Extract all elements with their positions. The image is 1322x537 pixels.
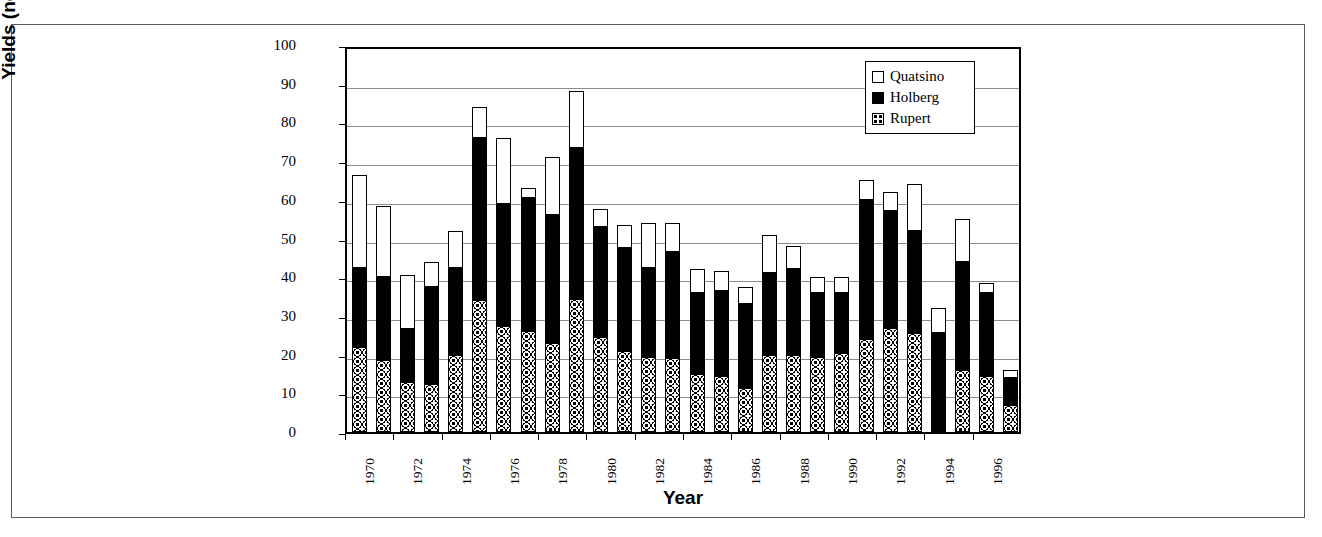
bar-segment-quatsino <box>376 206 391 278</box>
bar-segment-holberg <box>521 198 536 332</box>
bar-1982 <box>641 223 656 432</box>
bar-1971 <box>376 206 391 432</box>
bar-segment-holberg <box>376 277 391 360</box>
x-axis-tick-mark <box>538 434 539 440</box>
x-axis-tick-mark <box>683 434 684 440</box>
bar-1988 <box>786 246 801 432</box>
x-axis-tick-label: 1992 <box>893 458 909 485</box>
bar-segment-quatsino <box>569 91 584 147</box>
x-axis-tick-label: 1982 <box>652 458 668 485</box>
bar-1980 <box>593 209 608 432</box>
bar-1976 <box>496 138 511 432</box>
y-axis-tick-label: 80 <box>256 115 296 130</box>
bar-segment-rupert <box>472 300 487 432</box>
bar-segment-quatsino <box>786 246 801 269</box>
bar-segment-rupert <box>424 384 439 432</box>
bar-1992 <box>883 192 898 432</box>
bar-segment-holberg <box>569 148 584 299</box>
bar-segment-rupert <box>690 374 705 432</box>
legend-item-holberg: Holberg <box>872 87 966 108</box>
bar-1989 <box>810 277 825 432</box>
bar-1985 <box>714 271 729 432</box>
legend-label-quatsino: Quatsino <box>890 68 944 85</box>
x-axis-tick-label: 1994 <box>942 458 958 485</box>
bar-segment-quatsino <box>690 269 705 292</box>
bar-segment-holberg <box>641 268 656 357</box>
x-axis-tick-label: 1976 <box>507 458 523 485</box>
x-axis-tick-mark <box>490 434 491 440</box>
bar-1970 <box>352 175 367 432</box>
x-axis-tick-label: 1984 <box>700 458 716 485</box>
bar-segment-quatsino <box>617 225 632 248</box>
legend-item-quatsino: Quatsino <box>872 66 966 87</box>
bar-1990 <box>834 277 849 432</box>
bar-segment-rupert <box>617 351 632 432</box>
plot-area: Quatsino Holberg Rupert <box>345 47 1021 434</box>
bar-segment-holberg <box>979 293 994 376</box>
bar-1994 <box>931 308 946 432</box>
bar-segment-rupert <box>1003 405 1018 432</box>
bar-segment-rupert <box>593 337 608 432</box>
y-axis-tick-label: 20 <box>256 348 296 363</box>
x-axis-tick-label: 1996 <box>990 458 1006 485</box>
y-axis-tick-label: 30 <box>256 309 296 324</box>
bar-segment-quatsino <box>810 277 825 292</box>
bar-1997 <box>1003 370 1018 432</box>
bar-segment-quatsino <box>955 219 970 262</box>
bar-segment-holberg <box>834 293 849 353</box>
bar-segment-quatsino <box>762 235 777 274</box>
bar-segment-holberg <box>472 138 487 301</box>
bar-1981 <box>617 225 632 432</box>
bar-segment-holberg <box>786 269 801 354</box>
bar-segment-holberg <box>738 304 753 387</box>
bar-segment-quatsino <box>641 223 656 268</box>
legend-swatch-quatsino-icon <box>872 71 884 83</box>
bar-segment-rupert <box>545 343 560 432</box>
legend-item-rupert: Rupert <box>872 108 966 129</box>
bar-segment-quatsino <box>521 188 536 198</box>
x-axis-tick-mark <box>586 434 587 440</box>
bar-segment-quatsino <box>472 107 487 138</box>
bar-segment-quatsino <box>665 223 680 252</box>
y-axis-tick-label: 100 <box>256 38 296 53</box>
bar-segment-holberg <box>714 291 729 376</box>
bar-segment-holberg <box>617 248 632 351</box>
y-axis-tick-label: 90 <box>256 77 296 92</box>
bar-segment-quatsino <box>352 175 367 268</box>
y-axis-tick-label: 70 <box>256 154 296 169</box>
bar-segment-holberg <box>1003 378 1018 405</box>
x-axis-tick-mark <box>828 434 829 440</box>
bar-segment-rupert <box>955 370 970 432</box>
bar-1991 <box>859 180 874 432</box>
x-axis-tick-mark <box>635 434 636 440</box>
x-axis-tick-labels: 1970197219741976197819801982198419861988… <box>345 441 1021 487</box>
x-axis-tick-mark <box>393 434 394 440</box>
bar-segment-rupert <box>400 382 415 432</box>
bar-segment-holberg <box>859 200 874 339</box>
y-axis-tick-label: 60 <box>256 193 296 208</box>
x-axis-tick-label: 1972 <box>410 458 426 485</box>
bar-1995 <box>955 219 970 432</box>
figure-container: Yields (nos./trap 18 h set) 010203040506… <box>0 0 1322 537</box>
bar-segment-rupert <box>352 347 367 432</box>
bar-segment-rupert <box>786 355 801 432</box>
bar-segment-holberg <box>545 215 560 343</box>
bar-segment-rupert <box>810 357 825 432</box>
bar-1974 <box>448 231 463 432</box>
bar-segment-rupert <box>496 326 511 432</box>
y-axis-tick-label: 40 <box>256 270 296 285</box>
x-axis-tick-label: 1990 <box>845 458 861 485</box>
legend-label-holberg: Holberg <box>890 89 939 106</box>
bar-segment-quatsino <box>400 275 415 329</box>
bar-segment-rupert <box>641 357 656 432</box>
bar-segment-rupert <box>738 388 753 433</box>
x-axis-title: Year <box>345 487 1021 509</box>
x-axis-tick-label: 1974 <box>459 458 475 485</box>
legend-label-rupert: Rupert <box>890 110 931 127</box>
x-axis-tick-mark <box>924 434 925 440</box>
bar-segment-quatsino <box>907 184 922 230</box>
legend: Quatsino Holberg Rupert <box>865 61 975 134</box>
bar-segment-quatsino <box>834 277 849 292</box>
bar-segment-quatsino <box>545 157 560 215</box>
bar-segment-rupert <box>521 331 536 432</box>
